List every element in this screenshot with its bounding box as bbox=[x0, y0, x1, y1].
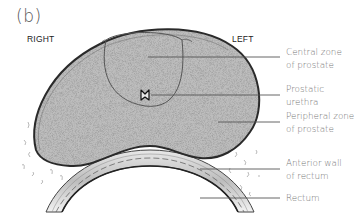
diagram-artwork bbox=[0, 0, 361, 216]
prostate-cross-section-diagram: (b) RIGHT LEFT Central zone of prostate … bbox=[0, 0, 361, 216]
callout-central-zone: Central zone of prostate bbox=[286, 46, 342, 71]
orientation-left-label: LEFT bbox=[232, 34, 254, 44]
callout-peripheral-zone: Peripheral zone of prostate bbox=[286, 110, 354, 135]
callout-rectum: Rectum bbox=[286, 192, 320, 205]
orientation-right-label: RIGHT bbox=[27, 34, 54, 44]
callout-anterior-wall-rectum: Anterior wall of rectum bbox=[286, 157, 342, 182]
panel-label: (b) bbox=[16, 6, 42, 26]
callout-prostatic-urethra: Prostatic urethra bbox=[286, 83, 324, 108]
